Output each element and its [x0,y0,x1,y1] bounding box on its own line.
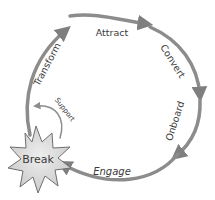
break-star: Break [8,126,71,193]
arrow-support [36,106,62,138]
support-label: Support [53,96,76,123]
stage-label-convert: Convert [158,42,187,80]
arrow-attract [70,15,147,24]
stage-label-onboard: Onboard [163,100,186,142]
break-label: Break [22,153,54,166]
stage-label-engage: Engage [93,166,131,177]
customer-lifecycle-diagram: Break Attract Convert Onboard Engage Tra… [0,0,215,200]
stage-label-attract: Attract [96,27,129,38]
